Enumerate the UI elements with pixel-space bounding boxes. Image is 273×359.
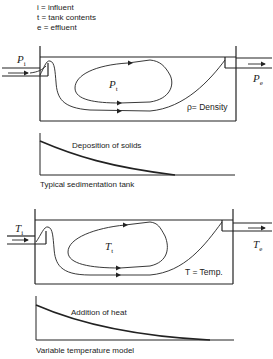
temp-note: T = Temp.: [185, 268, 223, 277]
temperature-tank: [7, 209, 272, 284]
deposition-curve-label: Deposition of solids: [72, 141, 141, 150]
sedimentation-caption: Typical sedimentation tank: [40, 180, 134, 189]
flow-arrows-tank2: [116, 223, 128, 278]
heat-curve-label: Addition of heat: [71, 308, 127, 317]
tank-temp-label: Tt: [105, 240, 113, 255]
deposition-graph: [40, 133, 235, 175]
inlet-density-label: Pi: [17, 53, 26, 68]
sedimentation-tank: [2, 46, 272, 121]
legend-tank-contents: t = tank contents: [37, 13, 96, 22]
temperature-caption: Variable temperature model: [36, 346, 134, 355]
legend-influent: i = influent: [37, 3, 74, 12]
legend-effluent: e = effluent: [37, 23, 77, 32]
density-note: ρ= Density: [187, 103, 228, 112]
flow-arrows-tank1: [117, 61, 133, 114]
flow-lines-tank2: [12, 222, 265, 275]
tank-density-label: Pt: [109, 78, 118, 93]
inlet-temp-label: Ti: [15, 222, 23, 237]
outlet-temp-label: Te: [253, 238, 262, 253]
outlet-density-label: Pe: [253, 72, 263, 87]
heat-graph: [36, 296, 234, 340]
